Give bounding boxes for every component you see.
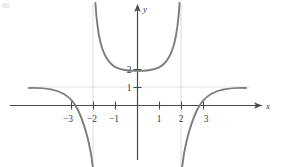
y-tick-label-2: 2 <box>127 65 132 75</box>
x-tick-label--1: −1 <box>109 114 119 124</box>
plot-canvas: x y −3 −2 −1 1 2 3 1 2 <box>0 0 282 167</box>
y-tick-label-1: 1 <box>127 83 132 93</box>
x-tick-label-1: 1 <box>157 114 162 124</box>
x-axis-label: x <box>265 101 270 111</box>
curve-branch-right <box>182 88 246 167</box>
function-graph-figure: x y −3 −2 −1 1 2 3 1 2 <box>0 0 282 167</box>
x-tick-label-2: 2 <box>179 114 184 124</box>
x-tick-label-3: 3 <box>204 114 209 124</box>
x-tick-label--2: −2 <box>87 114 97 124</box>
y-axis-label: y <box>142 4 147 14</box>
x-tick-label--3: −3 <box>63 114 73 124</box>
curve-branch-left <box>29 88 93 167</box>
